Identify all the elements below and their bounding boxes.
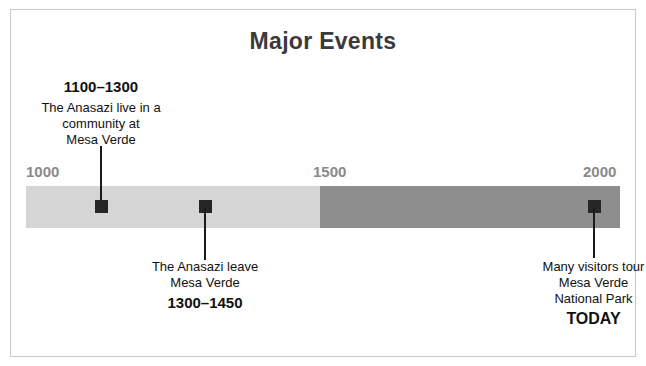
- event-annotation-3: Many visitors tour Mesa Verde National P…: [518, 259, 646, 328]
- event-3-description-line-2: Mesa Verde: [518, 275, 646, 291]
- event-1-description: The Anasazi live in a community at Mesa …: [30, 100, 172, 148]
- event-3-description-line-3: National Park: [518, 291, 646, 307]
- event-1-range: 1100–1300: [30, 78, 172, 96]
- leader-line-event-2: [204, 208, 206, 260]
- leader-line-event-3: [593, 208, 595, 258]
- event-2-description-line-1: The Anasazi leave: [145, 259, 265, 275]
- tick-label-2000: 2000: [583, 163, 616, 180]
- event-3-range: TODAY: [518, 309, 646, 329]
- event-2-description: The Anasazi leave Mesa Verde: [145, 259, 265, 291]
- event-2-description-line-2: Mesa Verde: [145, 275, 265, 291]
- event-1-description-line-1: The Anasazi live in a: [30, 100, 172, 116]
- timeline-bar: [26, 186, 620, 228]
- tick-label-1500: 1500: [313, 163, 346, 180]
- page-title: Major Events: [0, 28, 646, 55]
- event-2-range: 1300–1450: [145, 294, 265, 312]
- event-3-description-line-1: Many visitors tour: [518, 259, 646, 275]
- event-1-description-line-3: Mesa Verde: [30, 132, 172, 148]
- event-marker-1: [95, 200, 108, 213]
- tick-label-1000: 1000: [26, 163, 59, 180]
- timeline-figure: Major Events 1000 1500 2000 1100–1300 Th…: [0, 0, 646, 366]
- event-3-description: Many visitors tour Mesa Verde National P…: [518, 259, 646, 307]
- timeline-segment-early: [26, 186, 320, 228]
- event-1-description-line-2: community at: [30, 116, 172, 132]
- leader-line-event-1: [100, 146, 102, 204]
- event-annotation-1: 1100–1300 The Anasazi live in a communit…: [30, 78, 172, 148]
- timeline-segment-late: [320, 186, 620, 228]
- event-annotation-2: The Anasazi leave Mesa Verde 1300–1450: [145, 259, 265, 312]
